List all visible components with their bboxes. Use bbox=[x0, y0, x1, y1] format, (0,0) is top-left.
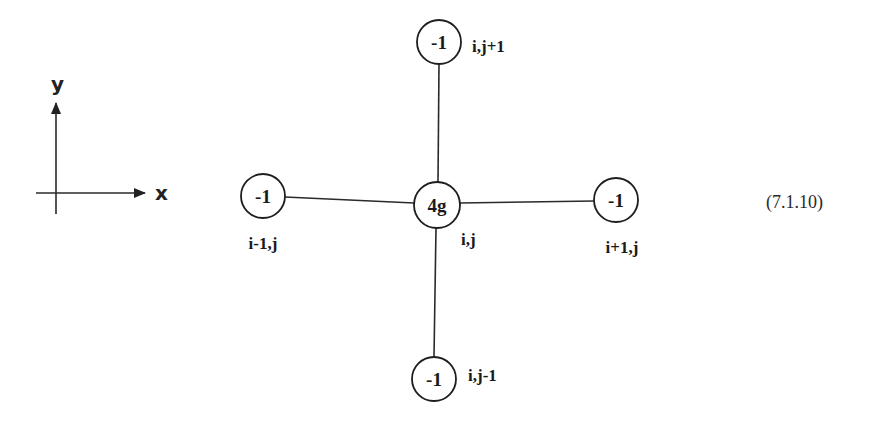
node-bottom-value: -1 bbox=[426, 369, 442, 390]
node-right: -1 i+1,j bbox=[594, 178, 638, 257]
node-right-label: i+1,j bbox=[606, 238, 639, 257]
node-bottom-label: i,j-1 bbox=[468, 366, 497, 385]
coordinate-axes: y x bbox=[36, 72, 168, 214]
node-right-value: -1 bbox=[608, 190, 624, 211]
node-top-value: -1 bbox=[431, 32, 447, 53]
equation-number: (7.1.10) bbox=[766, 192, 823, 213]
edge-center-bottom bbox=[434, 228, 436, 357]
node-center-label: i,j bbox=[461, 230, 476, 249]
y-axis-label: y bbox=[51, 72, 64, 96]
edge-center-right bbox=[460, 201, 594, 203]
node-center-value: 4g bbox=[428, 195, 448, 216]
node-top-label: i,j+1 bbox=[472, 37, 505, 56]
node-bottom: -1 i,j-1 bbox=[412, 357, 497, 401]
node-left-value: -1 bbox=[255, 186, 271, 207]
five-point-stencil-diagram: y x -1 i,j+1 4g i,j -1 i-1,j -1 i+1,j -1… bbox=[0, 0, 873, 424]
node-center: 4g i,j bbox=[414, 182, 476, 249]
edge-center-left bbox=[285, 197, 414, 203]
x-axis-label: x bbox=[155, 181, 168, 205]
node-left: -1 i-1,j bbox=[241, 174, 285, 253]
edge-center-top bbox=[438, 64, 439, 182]
node-left-label: i-1,j bbox=[249, 234, 278, 253]
node-top: -1 i,j+1 bbox=[417, 20, 505, 64]
